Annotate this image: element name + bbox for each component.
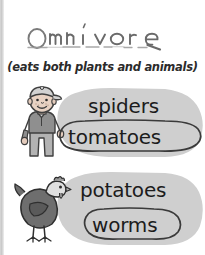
food-word-potatoes[interactable]: potatoes	[80, 178, 166, 202]
chicken-icon	[12, 174, 72, 246]
handwritten-title: Omnivore	[0, 22, 205, 60]
worksheet-page: Omnivore	[0, 0, 205, 255]
subtitle-text: (eats both plants and animals)	[0, 60, 205, 74]
food-word-tomatoes[interactable]: tomatoes	[68, 125, 161, 149]
food-group-boy: spiders tomatoes	[0, 84, 205, 162]
title-strokes-icon	[0, 22, 205, 60]
food-word-worms[interactable]: worms	[92, 213, 157, 237]
food-group-chicken: potatoes worms	[0, 168, 205, 250]
food-word-spiders[interactable]: spiders	[88, 94, 159, 118]
